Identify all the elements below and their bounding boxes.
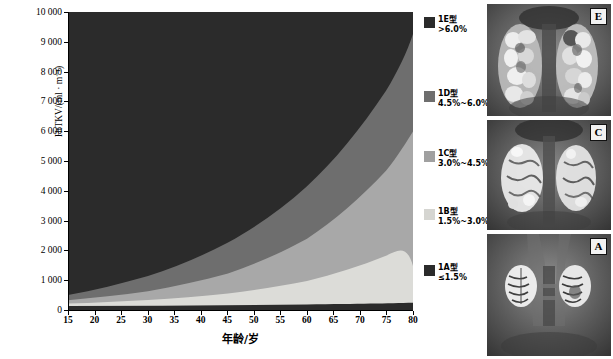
legend-color-swatch <box>424 17 435 28</box>
legend-label: 1B型1.5%~3.0% <box>438 207 489 226</box>
x-axis-tick-label: 30 <box>135 315 161 326</box>
legend-class-label: 1E型 <box>438 15 467 25</box>
y-axis-tick <box>64 191 68 192</box>
y-axis-tick-label: 0 <box>0 305 62 315</box>
legend-range-label: >6.0% <box>438 25 467 35</box>
plot-area <box>68 12 413 310</box>
legend-range-label: 3.0%~4.5% <box>438 159 489 169</box>
x-axis-title: 年龄/岁 <box>68 330 413 346</box>
legend-class-label: 1D型 <box>438 89 489 99</box>
mri-panel-tag-A: A <box>590 238 607 255</box>
x-axis-tick-label: 35 <box>161 315 187 326</box>
y-axis-tick-label: 10 000 <box>0 7 62 17</box>
legend-range-label: 1.5%~3.0% <box>438 217 489 227</box>
legend-color-swatch <box>424 151 435 162</box>
legend-range-label: 4.5%~6.0% <box>438 99 489 109</box>
legend-class-label: 1C型 <box>438 149 489 159</box>
x-axis-tick-label: 45 <box>214 315 240 326</box>
legend-color-swatch <box>424 265 435 276</box>
x-axis-tick-label: 55 <box>267 315 293 326</box>
x-axis-line <box>68 310 413 311</box>
y-axis-tick <box>64 12 68 13</box>
x-axis-tick-label: 50 <box>241 315 267 326</box>
y-axis-title: HtTKV/(ml · m⁻¹) <box>53 42 64 162</box>
x-axis-tick-label: 75 <box>373 315 399 326</box>
y-axis-tick <box>64 221 68 222</box>
chart-figure: 10 0009 0008 0007 0006 0005 0004 0003 00… <box>0 0 425 359</box>
x-axis-tick-label: 40 <box>188 315 214 326</box>
y-axis-line <box>68 12 69 310</box>
legend-range-label: ≤1.5% <box>438 273 467 283</box>
x-axis-tick-label: 65 <box>320 315 346 326</box>
y-axis-tick-label: 2 000 <box>0 245 62 255</box>
legend-color-swatch <box>424 209 435 220</box>
legend-label: 1E型>6.0% <box>438 15 467 34</box>
mri-panel-C[interactable]: C <box>487 120 611 230</box>
mri-panel-A[interactable]: A <box>487 234 611 356</box>
x-axis-tick-label: 70 <box>347 315 373 326</box>
x-axis-tick-label: 25 <box>108 315 134 326</box>
y-axis-tick <box>64 101 68 102</box>
legend-label: 1A型≤1.5% <box>438 263 467 282</box>
legend-color-swatch <box>424 91 435 102</box>
legend-class-label: 1A型 <box>438 263 467 273</box>
y-axis-tick-label: 3 000 <box>0 216 62 226</box>
x-axis-tick-label: 80 <box>400 315 426 326</box>
mri-panel-E[interactable]: E <box>487 4 611 116</box>
mri-panel-column: E <box>487 2 611 357</box>
legend: 1E型>6.0%1D型4.5%~6.0%1C型3.0%~4.5%1B型1.5%~… <box>424 8 486 298</box>
y-axis-tick <box>64 72 68 73</box>
y-axis-tick-label: 4 000 <box>0 186 62 196</box>
y-axis-tick <box>64 42 68 43</box>
mri-panel-tag-C: C <box>590 124 607 141</box>
x-axis-tick-label: 20 <box>82 315 108 326</box>
y-axis-tick <box>64 250 68 251</box>
y-axis-tick <box>64 131 68 132</box>
x-axis-tick-label: 60 <box>294 315 320 326</box>
y-axis-tick <box>64 280 68 281</box>
legend-label: 1D型4.5%~6.0% <box>438 89 489 108</box>
legend-label: 1C型3.0%~4.5% <box>438 149 489 168</box>
legend-class-label: 1B型 <box>438 207 489 217</box>
y-axis-tick <box>64 161 68 162</box>
mri-panel-tag-E: E <box>590 8 607 25</box>
y-axis-tick-label: 1 000 <box>0 275 62 285</box>
band-1A <box>68 12 413 310</box>
x-axis-tick-label: 15 <box>55 315 81 326</box>
